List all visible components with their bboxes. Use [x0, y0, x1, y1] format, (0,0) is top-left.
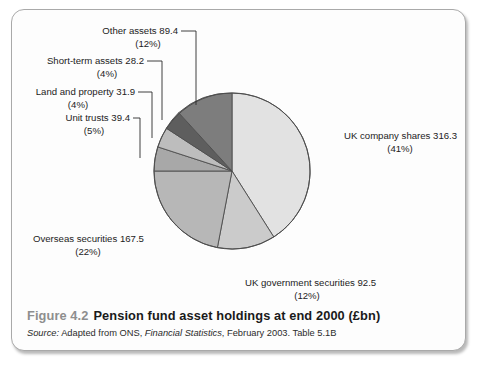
leader-line-unit-trusts	[133, 118, 140, 158]
source-text-after: , February 2003. Table 5.1B	[222, 328, 337, 338]
figure-number: Figure 4.2	[27, 308, 88, 323]
pie-slices	[154, 93, 310, 249]
label-uk-company-shares-value: UK company shares 316.3	[344, 130, 457, 141]
label-uk-government-securities-value: UK government securities 92.5	[245, 277, 376, 288]
source-text-before: Adapted from ONS,	[61, 328, 142, 338]
label-uk-company-shares-percent: (41%)	[387, 143, 413, 154]
figure-caption: Figure 4.2Pension fund asset holdings at…	[27, 306, 447, 338]
figure-container: Other assets 89.4 (12%) Short-term asset…	[0, 0, 482, 370]
label-overseas-securities-value: Overseas securities 167.5	[33, 233, 144, 244]
label-other-assets-percent: (12%)	[135, 38, 161, 49]
label-unit-trusts-value: Unit trusts 39.4	[65, 112, 130, 123]
label-short-term-assets-value: Short-term assets 28.2	[47, 55, 144, 66]
leader-line-other-assets	[181, 31, 196, 105]
source-label: Source:	[27, 328, 59, 338]
figure-title: Pension fund asset holdings at end 2000 …	[93, 308, 380, 323]
source-publication: Financial Statistics	[145, 328, 222, 338]
label-land-and-property-percent: (4%)	[68, 99, 88, 110]
label-uk-government-securities-percent: (12%)	[294, 290, 320, 301]
label-land-and-property-value: Land and property 31.9	[36, 86, 135, 97]
leader-line-short-term-assets	[147, 61, 162, 120]
label-other-assets-value: Other assets 89.4	[102, 25, 178, 36]
label-overseas-securities-percent: (22%)	[75, 246, 101, 257]
caption-title-line: Figure 4.2Pension fund asset holdings at…	[27, 306, 447, 324]
figure-source: Source: Adapted from ONS, Financial Stat…	[27, 328, 447, 338]
label-short-term-assets-percent: (4%)	[97, 68, 117, 79]
label-unit-trusts-percent: (5%)	[84, 125, 104, 136]
